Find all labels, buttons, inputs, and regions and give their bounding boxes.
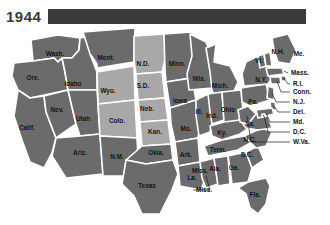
state-label-mi: Mich. — [212, 82, 229, 89]
state-shape-az — [52, 134, 103, 178]
map-svg: Wash.Ore.Calif.Nev.IdahoMont.Wyo.UtahAri… — [0, 28, 330, 225]
state-label-mo: Mo. — [180, 125, 191, 132]
state-label-pa: Pa. — [248, 98, 258, 105]
state-label-ga: Ga. — [229, 164, 240, 171]
state-label-ny: N.Y. — [255, 76, 267, 83]
state-label-tn: Tenn. — [210, 146, 227, 153]
state-label-al: Ala. — [209, 165, 221, 172]
callout-label-nj: N.J. — [293, 98, 305, 105]
state-shape-ut — [68, 90, 100, 136]
state-label-fl: Fla. — [249, 191, 260, 198]
us-map: Wash.Ore.Calif.Nev.IdahoMont.Wyo.UtahAri… — [0, 28, 330, 225]
state-label-nm: N.M. — [110, 153, 124, 160]
state-label-nh: N.H. — [272, 48, 285, 55]
callout-label-md: Md. — [293, 118, 304, 125]
figure-header: 1944 — [0, 4, 330, 30]
state-label-sd: S.D. — [137, 82, 150, 89]
state-label-or: Ore. — [27, 74, 40, 81]
state-label-tx: Texas — [138, 182, 156, 189]
state-label-oh: Ohio — [221, 106, 236, 113]
state-label-nd: N.D. — [137, 60, 150, 67]
state-label-ky: Ky. — [217, 129, 227, 137]
state-label-va: Va. — [245, 120, 254, 127]
callout-label-wv: W.Va. — [293, 138, 310, 145]
callout-label-ct: Conn. — [293, 88, 311, 95]
state-label-ca: Calif. — [19, 124, 35, 131]
leader-line-ma — [284, 71, 288, 73]
state-label-mt: Mont. — [97, 54, 114, 61]
callout-label-ms2: Miss. — [196, 186, 212, 193]
electoral-map-figure: 1944 Wash.Ore.Calif.Nev.IdahoMont.Wyo.Ut… — [0, 0, 330, 225]
state-shape-ct — [270, 77, 281, 84]
state-shape-dc — [262, 114, 265, 117]
state-shape-ma — [266, 68, 284, 76]
state-label-ne: Neb. — [140, 105, 154, 112]
callout-label-de: Del. — [293, 108, 305, 115]
state-label-vt: Vt. — [255, 57, 263, 64]
callout-label-dc: D.C. — [293, 128, 306, 135]
state-label-ks: Kan. — [148, 128, 162, 135]
state-label-nv: Nev. — [50, 106, 63, 113]
state-label-ut: Utah — [76, 115, 90, 122]
state-label-il: Ill. — [195, 108, 202, 115]
state-label-sc: S.C. — [241, 151, 254, 158]
header-bar — [48, 9, 306, 24]
state-label-co: Colo. — [109, 117, 125, 124]
state-shape-nj — [267, 86, 274, 100]
state-label-ms: Miss. — [192, 167, 208, 174]
state-label-mn: Minn. — [169, 60, 186, 67]
callout-label-ri: R.I. — [293, 80, 303, 87]
state-shape-nd — [134, 34, 166, 74]
state-label-in: Ind. — [206, 112, 218, 119]
state-label-wi: Wis. — [192, 75, 205, 82]
state-label-me: Me. — [294, 50, 305, 57]
state-label-la: La. — [187, 174, 196, 181]
state-label-ia: Iowa — [173, 97, 188, 104]
callout-label-ma: Mass. — [291, 69, 309, 76]
state-label-nc: N.C. — [244, 136, 257, 143]
state-label-ok: Okla. — [148, 149, 164, 156]
state-shape-wy — [97, 66, 135, 104]
state-label-id: Idaho — [64, 80, 81, 87]
year-label: 1944 — [6, 8, 41, 25]
state-label-az: Ariz. — [73, 149, 87, 156]
state-label-wa: Wash. — [46, 50, 65, 57]
state-label-ar: Ark. — [180, 151, 193, 158]
state-label-wy: Wyo. — [100, 87, 115, 95]
